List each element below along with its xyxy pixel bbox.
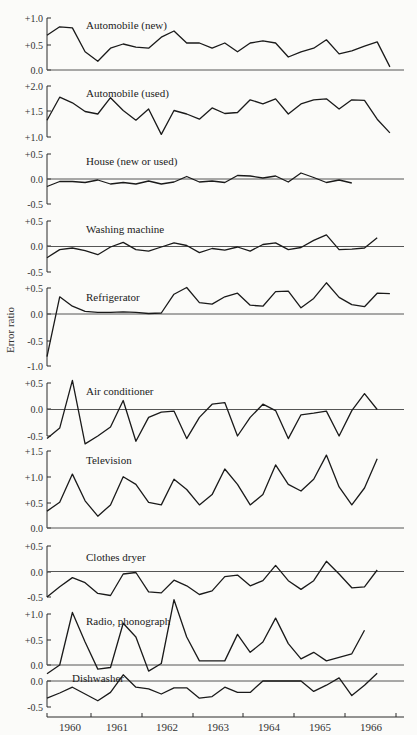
y-tick-label: +1.0: [25, 472, 43, 483]
y-tick-label: +1.0: [25, 13, 43, 24]
y-tick-label: -0.5: [27, 199, 43, 210]
x-tick-label: 1960: [59, 721, 82, 733]
panel-label: Refrigerator: [86, 291, 140, 303]
y-tick-label: +0.5: [25, 498, 43, 509]
y-tick-label: +1.0: [25, 132, 43, 143]
y-tick-label: +1.0: [25, 609, 43, 620]
x-tick-label: 1965: [309, 721, 332, 733]
panel-label: Automobile (new): [86, 19, 167, 32]
y-tick-label: +0.5: [25, 216, 43, 227]
panel-radio-phonograph: +1.0+0.50.0Radio, phonograph: [25, 600, 404, 674]
series-line: [47, 97, 390, 134]
panel-label: Television: [86, 454, 132, 466]
y-tick-label: 0.0: [31, 309, 44, 320]
panel-air-conditioner: +0.50.0-0.5Air conditioner: [25, 378, 404, 444]
y-tick-label: -0.5: [27, 431, 43, 442]
chart-panels: +1.0+0.50.0Automobile (new)+2.0+1.5+1.0A…: [25, 13, 404, 713]
panel-label: Automobile (used): [86, 87, 169, 100]
series-line: [47, 561, 377, 597]
y-tick-label: -0.5: [27, 267, 43, 278]
y-tick-label: -0.5: [27, 702, 43, 713]
y-tick-label: +1.5: [25, 446, 43, 457]
panel-washing-machine: +0.50.0-0.5Washing machine: [25, 216, 404, 278]
x-tick-label: 1961: [106, 721, 128, 733]
y-tick-label: 0.0: [31, 523, 44, 534]
y-tick-label: +1.5: [25, 106, 43, 117]
panel-label: Air conditioner: [86, 385, 154, 397]
x-tick-label: 1966: [360, 721, 383, 733]
series-line: [47, 27, 390, 67]
x-tick-label: 1964: [258, 721, 281, 733]
x-tick-label: 1963: [207, 721, 230, 733]
y-tick-label: +0.5: [25, 635, 43, 646]
panel-television: +1.5+1.0+0.50.0Television: [25, 446, 404, 534]
series-line: [47, 600, 365, 674]
panel-label: Clothes dryer: [86, 551, 146, 563]
panel-refrigerator: +0.50.0-0.5-1.0Refrigerator: [25, 283, 404, 372]
panel-house-new-or-used: +0.50.0-0.5House (new or used): [25, 149, 404, 210]
panel-clothes-dryer: +0.50.0-0.5Clothes dryer: [25, 541, 404, 603]
y-tick-label: +0.5: [25, 541, 43, 552]
x-axis: 1960196119621963196419651966: [47, 713, 404, 733]
y-tick-label: 0.0: [31, 567, 44, 578]
series-line: [47, 173, 352, 187]
panel-label: Dishwasher: [72, 672, 124, 684]
y-tick-label: +0.5: [25, 40, 43, 51]
y-tick-label: +2.0: [25, 81, 43, 92]
y-tick-label: +0.5: [25, 378, 43, 389]
x-tick-label: 1962: [156, 721, 178, 733]
error-ratio-small-multiples-chart: +1.0+0.50.0Automobile (new)+2.0+1.5+1.0A…: [0, 0, 417, 735]
y-tick-label: -0.5: [27, 592, 43, 603]
y-tick-label: 0.0: [31, 241, 44, 252]
panel-label: House (new or used): [86, 155, 178, 168]
y-tick-label: 0.0: [31, 404, 44, 415]
y-tick-label: 0.0: [31, 65, 44, 76]
panel-automobile-new: +1.0+0.50.0Automobile (new): [25, 13, 404, 76]
y-tick-label: 0.0: [31, 660, 44, 671]
y-tick-label: 0.0: [31, 676, 44, 687]
y-tick-label: +0.5: [25, 149, 43, 160]
panel-label: Washing machine: [86, 223, 164, 235]
panel-label: Radio, phonograph: [86, 615, 171, 627]
y-tick-label: -0.5: [27, 336, 43, 347]
panel-dishwasher: 0.0-0.5Dishwasher: [27, 672, 404, 713]
y-axis-label: Error ratio: [4, 306, 16, 353]
y-tick-label: -1.0: [27, 361, 43, 372]
y-tick-label: 0.0: [31, 174, 44, 185]
y-tick-label: +0.5: [25, 283, 43, 294]
panel-automobile-used: +2.0+1.5+1.0Automobile (used): [25, 81, 390, 143]
